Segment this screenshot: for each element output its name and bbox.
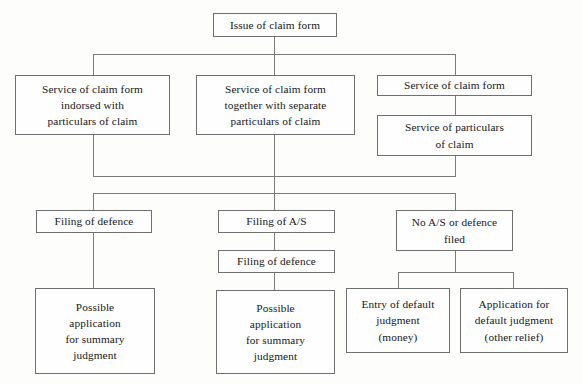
node-line: Filing of defence (237, 253, 316, 269)
node-line: Entry of default (361, 296, 434, 312)
connector-filing-as-to-defence (274, 232, 275, 250)
node-service-claim-form-together-separate[interactable]: Service of claim form together with sepa… (196, 75, 355, 135)
connector-dist-to-filing-defence-left (93, 193, 94, 210)
connector-middle-service-down (274, 135, 275, 176)
node-line: Service of claim form (42, 81, 143, 97)
node-line: Service of claim form (404, 77, 505, 93)
node-issue-of-claim-form[interactable]: Issue of claim form (213, 13, 337, 37)
connector-top-to-right-branch (455, 54, 456, 75)
node-line: of claim (435, 136, 473, 152)
node-line: judgment (254, 348, 297, 364)
node-filing-of-acknowledgment-of-service[interactable]: Filing of A/S (218, 210, 335, 233)
node-line: Service of claim form (225, 81, 326, 97)
connector-right-particulars-down (455, 155, 456, 176)
node-possible-application-summary-judgment-middle[interactable]: Possible application for summary judgmen… (216, 290, 335, 374)
node-filing-of-defence-left[interactable]: Filing of defence (36, 210, 152, 233)
node-line: (money) (379, 329, 418, 345)
flowchart-canvas: Issue of claim form Service of claim for… (0, 0, 583, 384)
node-line: No A/S or defence (412, 214, 497, 230)
connector-top-to-left-branch (93, 54, 94, 75)
node-service-claim-form[interactable]: Service of claim form (377, 75, 532, 96)
node-line: together with separate (225, 97, 327, 113)
node-line: filed (444, 231, 465, 247)
node-application-for-default-judgment-other-relief[interactable]: Application for default judgment (other … (460, 288, 568, 353)
connector-top-to-middle-branch (274, 54, 275, 75)
node-line: judgment (73, 347, 116, 363)
node-line: (other relief) (485, 329, 544, 345)
node-line: Service of particulars (405, 119, 504, 135)
node-line: judgment (376, 312, 419, 328)
node-no-as-or-defence-filed[interactable]: No A/S or defence filed (396, 210, 513, 251)
connector-no-as-down (455, 250, 456, 272)
node-line: for summary (65, 331, 124, 347)
connector-default-judgment-split-bar (398, 272, 514, 273)
node-line: Possible (256, 300, 294, 316)
node-possible-application-summary-judgment-left[interactable]: Possible application for summary judgmen… (35, 288, 155, 374)
node-line: particulars of claim (231, 113, 321, 129)
node-service-of-particulars-of-claim[interactable]: Service of particulars of claim (377, 115, 532, 156)
connector-right-claimform-to-particulars (455, 95, 456, 115)
node-line: Filing of defence (55, 213, 134, 229)
connector-dist-to-filing-as (274, 193, 275, 210)
connector-dist-to-no-as (455, 193, 456, 210)
connector-left-service-down (93, 135, 94, 176)
node-line: particulars of claim (48, 113, 138, 129)
node-line: Possible (76, 299, 114, 315)
connector-merge-to-distribution (274, 176, 275, 193)
node-service-claim-form-indorsed[interactable]: Service of claim form indorsed with part… (15, 75, 170, 135)
node-line: application (250, 316, 301, 332)
connector-issue-down (274, 36, 275, 54)
node-line: for summary (246, 332, 305, 348)
connector-left-defence-to-summary (93, 232, 94, 288)
node-filing-of-defence-middle[interactable]: Filing of defence (218, 250, 335, 273)
node-line: Issue of claim form (230, 17, 320, 33)
connector-split-to-application-default (513, 272, 514, 288)
node-line: application (69, 315, 120, 331)
node-line: Application for (479, 296, 550, 312)
connector-middle-defence-to-summary (274, 272, 275, 290)
node-entry-of-default-judgment-money[interactable]: Entry of default judgment (money) (346, 288, 450, 353)
node-line: Filing of A/S (246, 213, 306, 229)
node-line: indorsed with (61, 97, 124, 113)
node-line: default judgment (475, 312, 553, 328)
connector-split-to-entry-default (398, 272, 399, 288)
